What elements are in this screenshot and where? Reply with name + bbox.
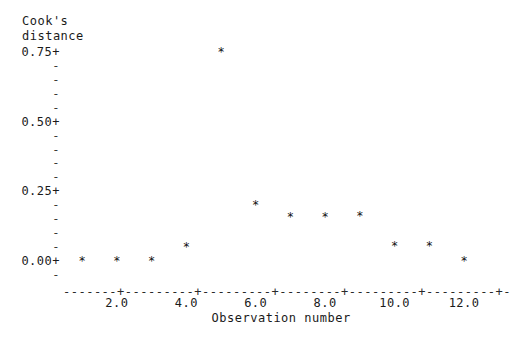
y-axis-tick-label: 0.50+ [14, 115, 60, 129]
y-axis-tick-label: 0.25+ [14, 184, 60, 198]
y-axis-minor-tick: - [14, 156, 60, 170]
data-point: * [216, 46, 226, 58]
y-axis-minor-tick: - [14, 101, 60, 115]
y-axis-minor-tick: - [14, 198, 60, 212]
x-axis-tick-label: 12.0 [434, 296, 494, 310]
data-point: * [424, 240, 434, 252]
data-point: * [251, 199, 261, 211]
x-axis-tick-label: 6.0 [226, 296, 286, 310]
y-axis-minor-tick: - [14, 170, 60, 184]
y-axis-minor-tick: - [14, 143, 60, 157]
x-axis-title: Observation number [212, 311, 351, 325]
y-axis-minor-tick: - [14, 87, 60, 101]
y-axis-title-line2: distance [22, 29, 84, 44]
x-axis-tick-label: 10.0 [365, 296, 425, 310]
data-point: * [112, 255, 122, 267]
y-axis-minor-tick: - [14, 226, 60, 240]
y-axis-minor-tick: - [14, 240, 60, 254]
y-axis-tick-label: 0.75+ [14, 45, 60, 59]
x-axis-tick-label: 2.0 [87, 296, 147, 310]
x-axis-tick-label: 4.0 [156, 296, 216, 310]
y-axis-minor-tick: - [14, 212, 60, 226]
data-point: * [181, 241, 191, 253]
y-axis-minor-tick: - [14, 268, 60, 282]
y-axis-minor-tick: - [14, 59, 60, 73]
y-axis-minor-tick: - [14, 73, 60, 87]
data-point: * [77, 255, 87, 267]
y-axis-title-line1: Cook's [22, 14, 68, 29]
x-axis-tick-label: 8.0 [295, 296, 355, 310]
data-point: * [285, 211, 295, 223]
data-point: * [147, 255, 157, 267]
data-point: * [320, 211, 330, 223]
data-point: * [390, 240, 400, 252]
data-point: * [459, 255, 469, 267]
y-axis-tick-label: 0.00+ [14, 254, 60, 268]
data-point: * [355, 210, 365, 222]
y-axis-minor-tick: - [14, 129, 60, 143]
